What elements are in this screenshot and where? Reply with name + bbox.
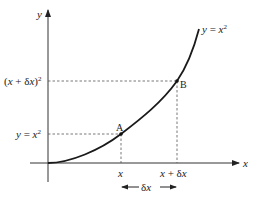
point-a-x-label: x (117, 167, 123, 179)
curve-label: y = x2 (201, 23, 228, 35)
point-a-label: A (116, 122, 124, 133)
x-axis-label: x (242, 157, 248, 169)
point-a-y-label: y = x2 (15, 128, 42, 140)
point-b-y-label: (x + δx)2 (4, 75, 42, 88)
delta-x-label: δx (141, 181, 151, 193)
diagram-canvas: y x y = x2 A B y = x2 (x + δx)2 x x + δx… (0, 0, 254, 202)
y-axis-label: y (36, 8, 42, 20)
point-b-label: B (180, 79, 187, 90)
parabola-curve (48, 29, 199, 163)
point-b-marker (175, 79, 179, 83)
point-b-x-label: x + δx (159, 167, 187, 179)
